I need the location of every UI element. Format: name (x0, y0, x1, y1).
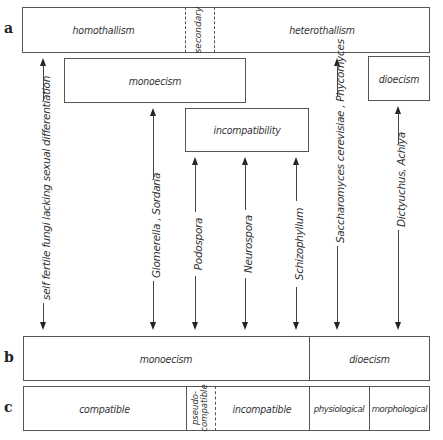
arrow-label-saccharomyces: Saccharomyces cerevisiae , Phycomyces (334, 96, 346, 246)
arrow-down-icon (334, 322, 340, 330)
arrow-label-schizophyllum: Schizophyllum (293, 201, 305, 287)
pseudo-left-divider (186, 386, 187, 431)
homothallism-label: homothallism (22, 7, 185, 53)
arrow-down-icon (192, 322, 198, 330)
compatible-label: compatible (23, 386, 186, 431)
arrow-label-podospora: Podospora (192, 212, 204, 276)
row-label-b: b (4, 349, 14, 365)
row-b-monoecism-label: monoecism (23, 336, 309, 381)
dioecism-box: dioecism (368, 56, 430, 101)
arrow-label-neurospora: Neurospora (242, 210, 254, 278)
arrow-label-dictyuchus: Dictyuchus, Achlya (395, 144, 407, 230)
arrow-down-icon (242, 322, 248, 330)
secondary-label: secondary (194, 0, 206, 60)
incompatibility-label: incompatibility (213, 124, 280, 136)
arrow-down-icon (150, 322, 156, 330)
monoecism-box: monoecism (64, 58, 246, 103)
secondary-left-divider (185, 7, 186, 53)
pseudo-compatible-label: pseudo- compatible (191, 383, 211, 433)
heterothallism-label: heterothallism (214, 7, 430, 53)
arrow-label-self-fertile: self fertile fungi lacking sexual differ… (40, 101, 52, 303)
arrow-down-icon (293, 322, 299, 330)
physiological-label: physiological (309, 386, 369, 431)
pseudo-compatible-line2: compatible (199, 384, 209, 431)
row-b-dioecism-label: dioecism (309, 336, 430, 381)
incompatibility-box: incompatibility (185, 108, 309, 152)
incompatible-label: incompatible (215, 386, 309, 431)
monoecism-label: monoecism (129, 75, 182, 87)
arrow-down-icon (40, 322, 46, 330)
arrow-label-glomerella: Glomerella , Sordaria (150, 179, 162, 281)
row-label-c: c (4, 399, 13, 415)
arrow-down-icon (395, 322, 401, 330)
dioecism-label: dioecism (379, 73, 420, 85)
morphological-label: morphological (369, 386, 430, 431)
row-label-a: a (4, 20, 13, 36)
